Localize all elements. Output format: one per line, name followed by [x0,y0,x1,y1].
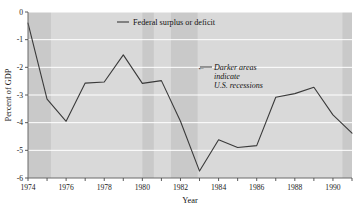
x-axis-tick-label: 1980 [135,183,150,192]
y-axis-tick-label: -4 [17,118,24,127]
y-axis-title: Percent of GDP [4,68,13,121]
x-axis-tick-label: 1990 [325,183,340,192]
y-axis-tick-label: -3 [17,91,24,100]
y-axis-tick-label: -5 [17,146,24,155]
x-axis-tick-label: 1974 [20,183,35,192]
x-axis-tick-label: 1988 [287,183,302,192]
x-axis-tick-label: 1984 [211,183,226,192]
x-axis-tick-label: 1976 [59,183,74,192]
y-axis-tick-label: -1 [17,35,24,44]
federal-deficit-line-chart: 0-1-2-3-4-5-6 19741976197819801982198419… [0,0,358,216]
y-axis-tick-label: -6 [17,174,24,183]
legend-label-federal-surplus-or-deficit: Federal surplus or deficit [133,18,216,27]
recession-annotation-arrow-icon: ← [197,63,205,72]
x-axis-tick-label: 1978 [97,183,112,192]
y-axis-tick-label: 0 [19,8,23,17]
recession-annotation-line-1: Darker areas [213,63,257,72]
x-axis-tick-label: 1982 [173,183,188,192]
x-axis-tick-labels-group: 197419761978198019821984198619881990 [20,183,340,192]
y-axis-tick-labels-group: 0-1-2-3-4-5-6 [17,8,24,183]
x-axis-tick-label: 1986 [249,183,264,192]
recession-annotation-line-3: U.S. recessions [214,81,263,90]
recession-annotation-line-2: indicate [214,72,240,81]
y-axis-tick-label: -2 [17,63,24,72]
x-axis-title: Year [182,196,198,205]
chart-figure: 0-1-2-3-4-5-6 19741976197819801982198419… [0,0,358,216]
